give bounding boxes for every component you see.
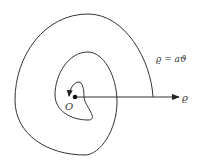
labels-layer: O ϱ ϱ = aϑ	[0, 0, 198, 162]
equation-label: ϱ = aϑ	[156, 54, 187, 64]
origin-label: O	[65, 101, 73, 112]
axis-label: ϱ	[182, 92, 188, 103]
